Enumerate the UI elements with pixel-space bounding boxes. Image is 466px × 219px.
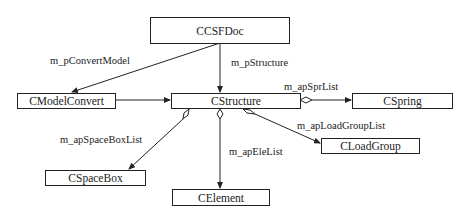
edge-structure-to-element bbox=[217, 109, 223, 188]
class-ccsfdoc: CCSFDoc bbox=[150, 17, 290, 44]
label-m-apsprlist: m_apSprList bbox=[284, 81, 338, 92]
class-cspring: CSpring bbox=[352, 93, 453, 109]
class-cspacebox: CSpaceBox bbox=[45, 170, 146, 186]
class-celement: CElement bbox=[172, 189, 270, 206]
label-m-pconvertmodel: m_pConvertModel bbox=[50, 55, 130, 66]
label-m-pstructure: m_pStructure bbox=[231, 57, 288, 68]
label-m-apspaceboxlist: m_apSpaceBoxList bbox=[60, 134, 142, 145]
edge-doc-to-modelconvert bbox=[72, 43, 220, 92]
class-cloadgroup: CLoadGroup bbox=[321, 138, 420, 154]
edge-structure-to-spring bbox=[300, 97, 351, 103]
label-m-aploadgrouplist: m_apLoadGroupList bbox=[297, 120, 385, 131]
class-cmodelconvert: CModelConvert bbox=[17, 93, 116, 109]
label-m-apelelist: m_apEleList bbox=[229, 146, 283, 157]
class-cstructure: CStructure bbox=[171, 93, 301, 109]
